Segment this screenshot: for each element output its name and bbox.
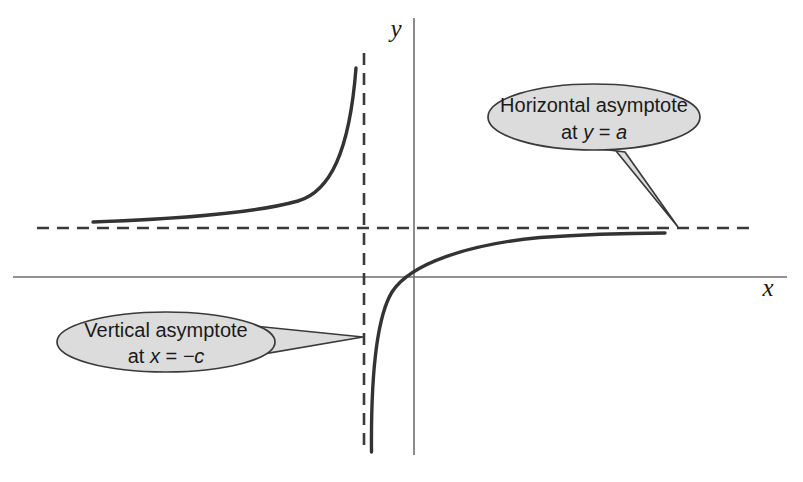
vertical-asymptote-callout[interactable]: Vertical asymptote at x = −c: [57, 312, 363, 372]
vertical-callout-line2-prefix: at: [128, 345, 150, 367]
asymptote-figure: x y Horizontal asymptote at y = a Vertic…: [0, 0, 803, 482]
vertical-callout-line2-value: −c: [183, 345, 205, 367]
curve-right-branch: [371, 233, 665, 452]
vertical-callout-line2-eq: =: [160, 345, 183, 367]
horizontal-asymptote-callout[interactable]: Horizontal asymptote at y = a: [488, 84, 700, 227]
horizontal-callout-line2-eq: =: [593, 121, 616, 143]
horizontal-callout-line1: Horizontal asymptote: [500, 94, 688, 116]
y-axis-label: y: [387, 15, 402, 42]
horizontal-callout-line2-prefix: at: [561, 121, 583, 143]
horizontal-callout-line2-value: a: [616, 121, 627, 143]
axes-group: [13, 18, 787, 455]
horizontal-callout-tail: [560, 144, 678, 227]
vertical-callout-line2: at x = −c: [128, 345, 205, 367]
horizontal-callout-line2: at y = a: [561, 121, 627, 143]
graph-canvas: x y Horizontal asymptote at y = a Vertic…: [0, 0, 803, 482]
vertical-callout-line1: Vertical asymptote: [84, 319, 247, 341]
x-axis-label: x: [761, 274, 773, 301]
curve-left-branch: [93, 68, 356, 222]
